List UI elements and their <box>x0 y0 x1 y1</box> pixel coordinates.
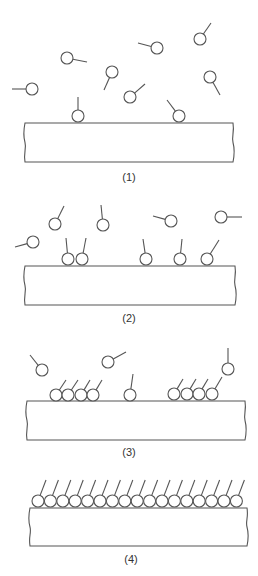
molecule-head <box>204 71 216 83</box>
molecule-tail <box>83 238 86 253</box>
molecule-head <box>76 253 88 265</box>
molecule-head <box>206 495 218 507</box>
substrate <box>24 123 234 162</box>
molecule-head <box>69 495 81 507</box>
molecule-tail <box>152 480 158 495</box>
panel-stage-3 <box>26 348 246 440</box>
molecule-tail <box>215 377 222 389</box>
molecule-head <box>151 42 163 54</box>
panel-stage-1 <box>12 23 234 162</box>
molecule-head <box>94 495 106 507</box>
molecule-head <box>27 236 39 248</box>
molecule-head <box>194 33 206 45</box>
molecule-head <box>193 495 205 507</box>
molecule-tail <box>104 77 110 90</box>
molecule-tail <box>177 379 183 389</box>
molecule-tail <box>65 480 71 495</box>
molecule-tail <box>239 480 245 495</box>
molecule-head <box>173 110 185 122</box>
substrate <box>29 508 248 546</box>
molecule-tail <box>131 374 133 389</box>
molecule-head <box>165 215 177 227</box>
molecule-tail <box>167 100 175 111</box>
molecule-head <box>62 253 74 265</box>
molecule-tail <box>96 380 102 390</box>
panel-label-4: (4) <box>124 553 137 565</box>
molecule-head <box>82 495 94 507</box>
molecule-head <box>61 52 73 64</box>
molecule-head <box>222 363 234 375</box>
molecule-tail <box>15 244 27 247</box>
panel-stage-4 <box>29 480 248 546</box>
molecule-head <box>119 495 131 507</box>
sam-formation-diagram: (1) (2) (3) (4) <box>0 0 258 576</box>
molecule-head <box>62 389 74 401</box>
molecule-tail <box>139 480 145 495</box>
molecule-head <box>131 495 143 507</box>
molecule-head <box>168 495 180 507</box>
molecule-tail <box>58 206 64 219</box>
panel-label-1: (1) <box>122 171 135 183</box>
molecule-tail <box>73 59 87 62</box>
molecule-head <box>87 389 99 401</box>
molecule-head <box>57 495 69 507</box>
molecule-head <box>124 389 136 401</box>
molecule-tail <box>102 480 108 495</box>
molecule-head <box>181 388 193 400</box>
molecule-head <box>218 495 230 507</box>
molecule-tail <box>30 355 38 365</box>
molecule-head <box>26 83 38 95</box>
molecule-head <box>144 495 156 507</box>
molecule-tail <box>153 216 165 219</box>
molecule-tail <box>203 23 211 34</box>
molecule-head <box>230 495 242 507</box>
molecule-tail <box>84 380 90 390</box>
molecule-head <box>181 495 193 507</box>
molecule-head <box>174 253 186 265</box>
molecule-tail <box>40 480 46 495</box>
molecule-tail <box>177 480 183 495</box>
molecule-head <box>215 211 227 223</box>
molecule-tail <box>101 205 102 219</box>
molecule-head <box>36 364 48 376</box>
substrate <box>26 401 246 440</box>
molecule-head <box>201 253 213 265</box>
molecule-tail <box>135 84 145 93</box>
molecule-head <box>206 388 218 400</box>
molecule-head <box>168 388 180 400</box>
molecule-tail <box>190 379 196 389</box>
molecule-head <box>102 356 114 368</box>
panel-label-3: (3) <box>122 446 135 458</box>
molecule-tail <box>53 480 59 495</box>
molecule-head <box>106 66 118 78</box>
molecule-tail <box>210 240 219 254</box>
molecule-tail <box>66 238 67 253</box>
molecule-tail <box>77 480 83 495</box>
molecule-head <box>193 388 205 400</box>
molecule-head <box>106 495 118 507</box>
molecule-tail <box>189 480 195 495</box>
molecule-head <box>97 219 109 231</box>
molecule-tail <box>127 480 133 495</box>
molecule-tail <box>138 43 151 46</box>
molecule-tail <box>201 480 207 495</box>
molecule-tail <box>213 82 220 95</box>
substrate <box>24 266 236 305</box>
molecule-tail <box>71 380 78 390</box>
molecule-head <box>49 218 61 230</box>
molecule-tail <box>202 379 208 389</box>
molecule-tail <box>113 352 126 359</box>
molecule-tail <box>214 480 220 495</box>
molecule-head <box>75 389 87 401</box>
panel-label-2: (2) <box>122 312 135 324</box>
molecule-head <box>156 495 168 507</box>
molecule-tail <box>226 480 232 495</box>
molecule-tail <box>143 239 145 253</box>
molecule-head <box>44 495 56 507</box>
molecule-tail <box>164 480 170 495</box>
molecule-head <box>32 495 44 507</box>
molecule-head <box>140 253 152 265</box>
molecule-head <box>124 91 136 103</box>
panel-stage-2 <box>15 205 242 305</box>
molecule-head <box>72 110 84 122</box>
